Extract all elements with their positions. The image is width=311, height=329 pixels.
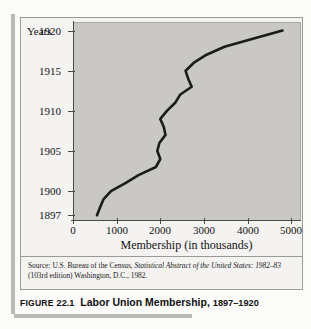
source-italic-years: 1982–83 bbox=[255, 261, 281, 270]
series-line-labor-union-membership bbox=[97, 31, 283, 216]
caption-title: Labor Union Membership, bbox=[80, 296, 210, 308]
caption-figure-number: 22.1 bbox=[57, 298, 75, 308]
caption-underline-rule bbox=[14, 314, 192, 318]
figure-box: Years 189719001905191019151920 010002000… bbox=[20, 17, 303, 290]
source-suffix: (103rd edition) Washington, D.C., 1982. bbox=[28, 271, 147, 280]
source-prefix: Source: U.S. Bureau of the Census, bbox=[28, 261, 133, 270]
left-vertical-rule bbox=[11, 14, 15, 314]
source-note: Source: U.S. Bureau of the Census, Stati… bbox=[21, 256, 302, 290]
caption-figure-word: FIGURE bbox=[20, 298, 54, 308]
x-axis-title: Membership (in thousands) bbox=[73, 238, 300, 253]
chart-region: Years 189719001905191019151920 010002000… bbox=[21, 18, 302, 256]
figure-root: Years 189719001905191019151920 010002000… bbox=[0, 0, 311, 329]
data-line-chart bbox=[21, 18, 302, 256]
figure-caption: FIGURE 22.1 Labor Union Membership, 1897… bbox=[20, 296, 300, 308]
source-italic-title: Statistical Abstract of the United State… bbox=[135, 261, 254, 270]
caption-years: 1897–1920 bbox=[213, 298, 259, 308]
